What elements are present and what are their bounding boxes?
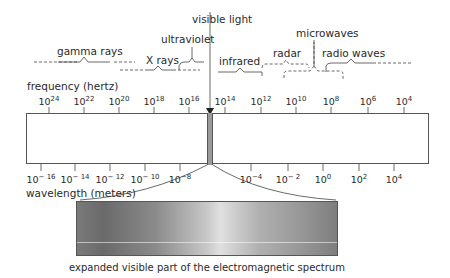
radio-waves-label: radio waves [322,48,385,59]
wavelength-tick: 10− 10 [130,174,159,185]
frequency-tick: 106 [360,96,377,107]
frequency-tick: 1022 [73,96,94,107]
wavelength-tick: 10−8 [169,174,191,185]
wavelength-tick: 100 [315,174,332,185]
frequency-tick: 1020 [108,96,129,107]
wavelength-tick: 10− 16 [26,174,55,185]
caption: expanded visible part of the electromagn… [0,262,414,273]
microwaves-label: microwaves [296,28,359,39]
infrared-label: infrared [219,56,260,67]
ultraviolet-label: ultraviolet [161,34,215,45]
frequency-axis-label: frequency (hertz) [27,81,118,92]
wavelength-tick: 102 [351,174,368,185]
frequency-tick: 1014 [214,96,235,107]
frequency-tick: 1012 [250,96,271,107]
gamma-rays-label: gamma rays [57,46,123,57]
wavelength-tick: 104 [386,174,403,185]
wavelength-tick: 10−4 [240,174,262,185]
spectrum-streak [77,242,337,243]
x-rays-label: X rays [146,55,179,66]
wavelength-tick: 10− 14 [60,174,89,185]
wavelength-tick: 10− 2 [276,174,301,185]
frequency-tick: 104 [396,96,413,107]
expanded-visible-spectrum [76,201,338,256]
visible-light-label: visible light [192,14,252,25]
frequency-tick: 1024 [38,96,59,107]
frequency-tick: 1016 [178,96,199,107]
frequency-tick: 1018 [143,96,164,107]
visible-light-band [207,113,213,165]
radar-label: radar [273,48,301,59]
frequency-tick: 108 [323,96,340,107]
spectrum-bar [26,113,429,164]
wavelength-axis-label: wavelength (meters) [26,188,136,199]
frequency-tick: 1010 [285,96,306,107]
wavelength-tick: 10− 12 [95,174,124,185]
